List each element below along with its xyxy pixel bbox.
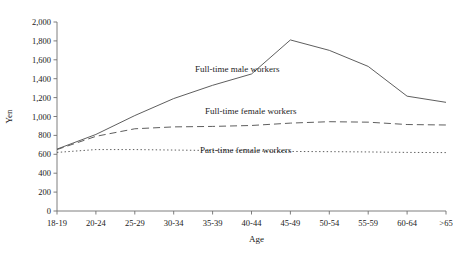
x-axis-tick-label: 50-54 <box>319 218 340 228</box>
y-axis-tick-label: 800 <box>38 130 51 140</box>
y-axis-tick-label: 1,000 <box>32 112 51 122</box>
y-axis-tick-label: 2,000 <box>32 17 51 27</box>
y-axis-tick-label: 0 <box>47 206 51 216</box>
x-axis-title: Age <box>249 234 264 244</box>
y-axis-tick-label: 1,800 <box>32 36 51 46</box>
x-axis-tick-label: 18-19 <box>47 218 67 228</box>
x-axis-tick-label: 30-34 <box>164 218 185 228</box>
x-axis-tick-label: >65 <box>439 218 452 228</box>
x-axis-tick-label: 25-29 <box>125 218 145 228</box>
figure-container: 02004006008001,0001,2001,4001,6001,8002,… <box>0 0 462 263</box>
x-axis-tick-label: 20-24 <box>86 218 107 228</box>
x-axis-tick-label: 45-49 <box>280 218 300 228</box>
series-annotation-1: Full-time male workers <box>195 64 280 74</box>
y-axis-tick-label: 1,600 <box>32 55 51 65</box>
figure-caption <box>28 254 448 263</box>
x-axis-tick-label: 35-39 <box>203 218 223 228</box>
x-axis-tick-label: 60-64 <box>397 218 418 228</box>
series-annotation-2: Full-time female workers <box>205 106 297 116</box>
y-axis-tick-label: 1,200 <box>32 93 51 103</box>
x-axis-tick-label: 55-59 <box>358 218 378 228</box>
x-axis-tick-label: 40-44 <box>242 218 263 228</box>
y-axis-tick-label: 1,400 <box>32 74 51 84</box>
y-axis-title: Yen <box>4 109 14 124</box>
line-chart: 02004006008001,0001,2001,4001,6001,8002,… <box>0 0 462 263</box>
y-axis-tick-label: 200 <box>38 187 51 197</box>
y-axis-tick-label: 400 <box>38 168 51 178</box>
y-axis-tick-label: 600 <box>38 149 51 159</box>
series-annotation-3: Part-time female workers <box>200 145 292 155</box>
